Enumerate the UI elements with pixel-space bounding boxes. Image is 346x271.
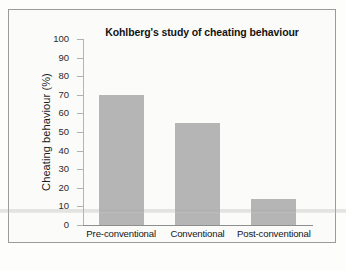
bar	[99, 95, 144, 225]
y-axis-tick-label: 40	[58, 144, 69, 157]
y-axis-tick-label: 50	[58, 125, 69, 138]
y-axis-tick-label: 100	[53, 32, 69, 45]
x-axis-tick-label: Pre-conventional	[83, 228, 159, 239]
y-axis-tick-label: 20	[58, 181, 69, 194]
y-axis-tick-label: 60	[58, 106, 69, 119]
x-axis-line	[83, 225, 313, 226]
y-axis-tick-label: 70	[58, 88, 69, 101]
x-axis-tick-label: Conventional	[159, 228, 235, 239]
x-axis-tick-label: Post-conventional	[236, 228, 312, 239]
scan-artifact-line-secondary	[0, 212, 346, 213]
chart-title: Kohlberg's study of cheating behaviour	[88, 26, 316, 38]
y-axis-label-container: Cheating behaviour (%)	[38, 39, 54, 225]
y-axis-tick-mark	[77, 225, 83, 226]
y-axis-label: Cheating behaviour (%)	[40, 73, 52, 191]
y-axis-tick-label: 0	[64, 218, 69, 231]
y-axis-tick-label: 80	[58, 69, 69, 82]
plot-area	[83, 39, 312, 225]
y-axis-tick-label: 30	[58, 162, 69, 175]
figure: Kohlberg's study of cheating behaviour C…	[0, 0, 346, 271]
y-axis-tick-label: 90	[58, 51, 69, 64]
